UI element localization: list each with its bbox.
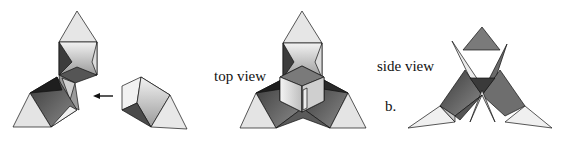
top-view-label: top view (214, 68, 266, 85)
side-view-label: side view (377, 58, 434, 75)
assembly-diagram (13, 11, 187, 129)
side-view-diagram (408, 27, 552, 128)
figure-canvas (0, 0, 562, 142)
panel-label: b. (385, 98, 396, 115)
